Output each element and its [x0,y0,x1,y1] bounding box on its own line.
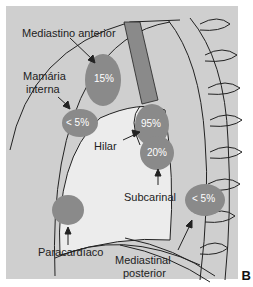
pct-mediastinal-posterior: < 5% [192,193,215,204]
panel-letter: B [242,268,251,283]
pct-mamaria-interna: < 5% [66,117,89,128]
pct-mediastino-anterior: 15% [94,73,114,84]
label-mamaria-interna-line2: interna [26,83,60,95]
label-mediastino-anterior: Mediastino anterior [22,27,116,39]
label-mamaria-interna-line1: Mamária [23,70,66,82]
label-paracardiaco: Paracardíaco [38,246,103,258]
label-mediastinal-posterior-line1: Mediastinal [115,254,171,266]
lymph-node-diagram: Mediastino anterior Mamária interna Hila… [0,0,253,287]
pct-subcarinal: 20% [147,147,167,158]
label-hilar: Hilar [94,140,117,152]
pct-hilar: 95% [141,118,161,129]
thorax-illustration [0,0,253,287]
label-subcarinal: Subcarinal [124,191,176,203]
label-mediastinal-posterior-line2: posterior [123,267,166,279]
